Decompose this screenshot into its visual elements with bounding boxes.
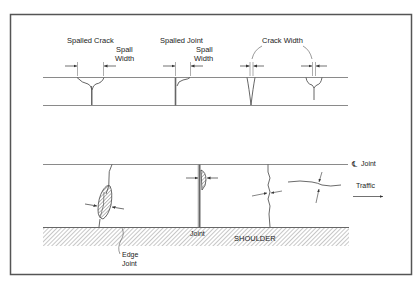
- spall-width-label-2b: Width: [194, 54, 213, 63]
- spalled-joint-label: Spalled Joint: [160, 36, 204, 45]
- centerline-joint-label: Joint: [361, 160, 376, 167]
- spall-width-label-1: Spall: [116, 45, 133, 54]
- spalled-crack-plan: [85, 165, 124, 228]
- spalling-diagram: Spalled Crack Spall Width Spalled Joint …: [0, 0, 417, 283]
- edge-joint-label-b: Joint: [122, 260, 137, 267]
- joint-label: Joint: [190, 230, 205, 237]
- crack-width-profile-2: [301, 46, 327, 100]
- edge-joint-label: Edge: [122, 251, 138, 259]
- crack-width-label: Crack Width: [262, 36, 303, 45]
- transverse-joint-plan: [186, 165, 218, 228]
- plan-view: Edge Joint Joint SHOULDER ℄ Joint Traff: [43, 160, 383, 267]
- transverse-crack-plan: [252, 165, 282, 228]
- shoulder-label: SHOULDER: [234, 234, 276, 243]
- spall-width-label-1b: Width: [115, 54, 134, 63]
- traffic-label: Traffic: [356, 182, 376, 189]
- meandering-crack-plan: [288, 172, 341, 203]
- spalled-crack-profile: [65, 62, 116, 105]
- spalled-joint-profile: [163, 62, 203, 106]
- profile-view: Spalled Crack Spall Width Spalled Joint …: [43, 36, 348, 106]
- spalled-crack-label: Spalled Crack: [67, 36, 114, 45]
- centerline-symbol: ℄: [351, 160, 358, 169]
- spall-width-label-2: Spall: [196, 45, 213, 54]
- crack-width-profile-1: [240, 46, 264, 105]
